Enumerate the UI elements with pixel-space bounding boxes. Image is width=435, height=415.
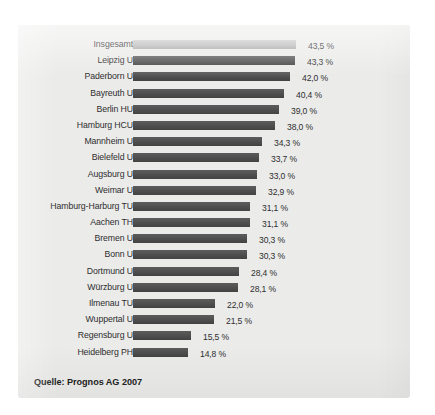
- chart-row: Mannheim U34,3 %: [18, 135, 410, 151]
- bar-value-label: 31,1 %: [262, 218, 288, 230]
- bar-category-label: Ilmenau TU: [0, 297, 133, 310]
- bar-category-label: Paderborn U: [0, 70, 133, 83]
- bar-track: 39,0 %: [133, 105, 410, 114]
- bar: [133, 299, 215, 308]
- chart-row: Augsburg U33,0 %: [18, 168, 410, 184]
- chart-row: Bremen U30,3 %: [18, 232, 410, 248]
- chart-row: Würzburg U28,1 %: [18, 281, 410, 297]
- chart-panel: Insgesamt43,5 %Leipzig U43,3 %Paderborn …: [18, 25, 410, 398]
- bar-track: 14,8 %: [133, 348, 410, 357]
- chart-row: Hamburg HCU38,0 %: [18, 119, 410, 135]
- bar-track: 15,5 %: [133, 331, 410, 340]
- bar-category-label: Dortmund U: [0, 265, 133, 278]
- chart-row: Dortmund U28,4 %: [18, 265, 410, 281]
- bar: [133, 89, 284, 98]
- bar: [133, 283, 238, 292]
- bar: [133, 170, 257, 179]
- bar: [133, 56, 295, 65]
- bar-category-label: Bonn U: [0, 248, 133, 261]
- bar-track: 32,9 %: [133, 186, 410, 195]
- bar-value-label: 34,3 %: [274, 137, 300, 149]
- chart-row: Leipzig U43,3 %: [18, 54, 410, 70]
- bar-category-label: Bayreuth U: [0, 87, 133, 100]
- bar-value-label: 30,3 %: [259, 234, 285, 246]
- bar-track: 28,1 %: [133, 283, 410, 292]
- bar-value-label: 28,4 %: [251, 267, 277, 279]
- bar-value-label: 33,0 %: [269, 170, 295, 182]
- bar-value-label: 43,3 %: [307, 56, 333, 68]
- bar-value-label: 32,9 %: [268, 186, 294, 198]
- bar: [133, 218, 250, 227]
- chart-row: Hamburg-Harburg TU31,1 %: [18, 200, 410, 216]
- bar-track: 28,4 %: [133, 267, 410, 276]
- bar: [133, 153, 259, 162]
- bar: [133, 137, 262, 146]
- bar-category-label: Augsburg U: [0, 168, 133, 181]
- bar-track: 31,1 %: [133, 202, 410, 211]
- bar-track: 42,0 %: [133, 72, 410, 81]
- bar-category-label: Berlin HU: [0, 103, 133, 116]
- bar: [133, 186, 256, 195]
- bar-value-label: 39,0 %: [291, 105, 317, 117]
- bar-track: 34,3 %: [133, 137, 410, 146]
- chart-row: Insgesamt43,5 %: [18, 38, 410, 54]
- bar-category-label: Regensburg U: [0, 329, 133, 342]
- bar: [133, 121, 275, 130]
- bar-value-label: 43,5 %: [308, 40, 334, 52]
- bar-category-label: Leipzig U: [0, 54, 133, 67]
- bar-total: [133, 40, 296, 49]
- bar: [133, 315, 214, 324]
- bar-value-label: 15,5 %: [203, 331, 229, 343]
- bar-value-label: 38,0 %: [287, 121, 313, 133]
- bar: [133, 72, 290, 81]
- bar-category-label: Wuppertal U: [0, 313, 133, 326]
- bar: [133, 348, 188, 357]
- bar-track: 43,3 %: [133, 56, 410, 65]
- bar-value-label: 33,7 %: [271, 153, 297, 165]
- bar-track: 43,5 %: [133, 40, 410, 49]
- bar: [133, 202, 250, 211]
- bar-track: 30,3 %: [133, 234, 410, 243]
- bar-category-label: Bremen U: [0, 232, 133, 245]
- bar-category-label: Bielefeld U: [0, 151, 133, 164]
- chart-row: Wuppertal U21,5 %: [18, 313, 410, 329]
- figure-bar-chart: Insgesamt43,5 %Leipzig U43,3 %Paderborn …: [0, 0, 435, 415]
- bar-value-label: 21,5 %: [226, 315, 252, 327]
- bar-track: 21,5 %: [133, 315, 410, 324]
- bar-track: 30,3 %: [133, 250, 410, 259]
- bar-category-label: Insgesamt: [0, 38, 133, 51]
- bar: [133, 267, 239, 276]
- bar-category-label: Mannheim U: [0, 135, 133, 148]
- bar-value-label: 14,8 %: [200, 348, 226, 360]
- chart-row: Berlin HU39,0 %: [18, 103, 410, 119]
- bar: [133, 250, 247, 259]
- plot-area: Insgesamt43,5 %Leipzig U43,3 %Paderborn …: [18, 38, 410, 368]
- bar-category-label: Weimar U: [0, 184, 133, 197]
- chart-row: Ilmenau TU22,0 %: [18, 297, 410, 313]
- chart-row: Bonn U30,3 %: [18, 248, 410, 264]
- source-note: Quelle: Prognos AG 2007: [34, 376, 142, 387]
- bar-track: 40,4 %: [133, 89, 410, 98]
- bar-category-label: Aachen TH: [0, 216, 133, 229]
- bar: [133, 234, 247, 243]
- bar-track: 38,0 %: [133, 121, 410, 130]
- chart-row: Bayreuth U40,4 %: [18, 87, 410, 103]
- bar-value-label: 22,0 %: [227, 299, 253, 311]
- bar-category-label: Hamburg-Harburg TU: [0, 200, 133, 213]
- bar-track: 33,0 %: [133, 170, 410, 179]
- bar: [133, 105, 279, 114]
- bar-track: 31,1 %: [133, 218, 410, 227]
- bar-value-label: 42,0 %: [302, 72, 328, 84]
- bar-value-label: 28,1 %: [250, 283, 276, 295]
- chart-row: Weimar U32,9 %: [18, 184, 410, 200]
- bar-value-label: 40,4 %: [296, 89, 322, 101]
- bar-track: 33,7 %: [133, 153, 410, 162]
- bar: [133, 331, 191, 340]
- bar-value-label: 30,3 %: [259, 250, 285, 262]
- chart-row: Heidelberg PH14,8 %: [18, 346, 410, 362]
- bar-category-label: Heidelberg PH: [0, 346, 133, 359]
- chart-row: Aachen TH31,1 %: [18, 216, 410, 232]
- bar-value-label: 31,1 %: [262, 202, 288, 214]
- chart-row: Regensburg U15,5 %: [18, 329, 410, 345]
- bar-category-label: Würzburg U: [0, 281, 133, 294]
